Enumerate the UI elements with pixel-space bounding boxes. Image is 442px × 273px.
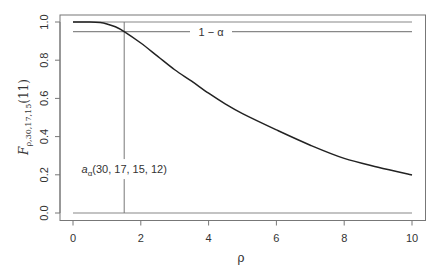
one-minus-alpha-label: 1 − α [198, 26, 224, 38]
chart: 0246810 0.00.20.40.60.81.0 ρ Fρ,30,17,15… [0, 0, 442, 273]
x-tick-label: 2 [138, 232, 144, 244]
y-axis-title-suffix: (11) [17, 79, 31, 104]
y-tick-label: 1.0 [38, 14, 50, 29]
x-tick-label: 10 [406, 232, 418, 244]
x-tick-label: 8 [341, 232, 347, 244]
x-axis: 0246810 [70, 221, 418, 245]
y-axis-title: Fρ,30,17,15(11) [17, 79, 33, 156]
reference-lines [73, 22, 412, 213]
a-alpha-label-suffix: (30, 17, 15, 12) [92, 163, 167, 175]
x-tick-label: 0 [70, 232, 76, 244]
y-tick-label: 0.6 [38, 91, 50, 106]
y-tick-label: 0.8 [38, 53, 50, 68]
x-tick-label: 4 [206, 232, 212, 244]
y-tick-label: 0.0 [38, 205, 50, 220]
x-tick-label: 6 [273, 232, 279, 244]
y-tick-label: 0.2 [38, 167, 50, 182]
y-axis: 0.00.20.40.60.81.0 [38, 14, 60, 220]
y-axis-title-subscript: ρ,30,17,15 [24, 104, 33, 147]
plot-frame [60, 15, 426, 221]
y-tick-label: 0.4 [38, 129, 50, 144]
x-axis-title: ρ [237, 251, 244, 265]
